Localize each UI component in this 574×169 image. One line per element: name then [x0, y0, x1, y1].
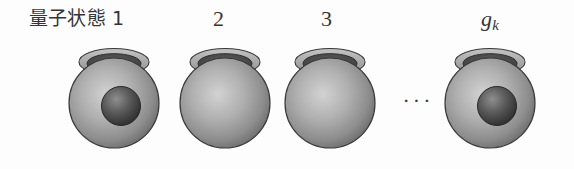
cell-label-gk-subscript: k: [492, 17, 499, 33]
quantum-state-cell-gk: [444, 41, 536, 149]
particle-gk: [478, 87, 517, 126]
quantum-state-figure: 量子状態 1 2 3 gk: [0, 0, 574, 169]
cell-label-1: 量子状態 1: [29, 9, 124, 28]
vessel-body-3: [285, 58, 375, 148]
cell-label-2: 2: [213, 8, 224, 30]
quantum-state-cell-1: [68, 41, 160, 149]
cell-label-gk: gk: [481, 8, 499, 33]
quantum-state-cell-2: [179, 41, 271, 149]
vessel-body-2: [180, 58, 270, 148]
particle-1: [102, 87, 141, 126]
ellipsis: ···: [398, 88, 438, 114]
cell-label-3: 3: [321, 8, 332, 30]
quantum-state-cell-3: [284, 41, 376, 149]
cell-label-gk-base: g: [481, 6, 492, 31]
